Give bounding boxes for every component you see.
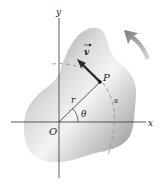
rotation-arrow-icon <box>124 30 150 60</box>
rigid-body-shape <box>24 28 136 162</box>
arc-length-label: s <box>114 96 118 105</box>
diagram-canvas: y x O P v r θ s <box>0 0 162 185</box>
radius-label: r <box>71 95 76 105</box>
x-axis-label: x <box>148 118 153 128</box>
velocity-label: v <box>84 47 90 57</box>
rotating-body-diagram: y x O P v r θ s <box>0 0 162 185</box>
angle-theta-label: θ <box>81 109 87 119</box>
point-p-dot <box>98 80 102 84</box>
y-axis-label: y <box>55 7 62 17</box>
point-p-label: P <box>102 72 110 83</box>
origin-label: O <box>49 126 57 137</box>
